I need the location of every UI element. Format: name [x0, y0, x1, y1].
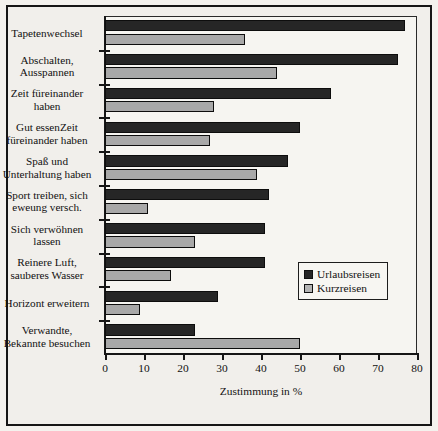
bar-1[interactable] [105, 135, 210, 146]
y-tick [99, 151, 110, 153]
bar-0[interactable] [105, 122, 300, 133]
x-tick [183, 353, 185, 360]
category-label: Spaß und Unterhaltung haben [1, 155, 93, 180]
bar-row: Abschalten, Ausspannen [0, 50, 438, 84]
y-tick [99, 185, 110, 187]
bar-1[interactable] [105, 304, 140, 315]
bar-group [105, 185, 417, 219]
category-label: Sich verwöhnen lassen [1, 223, 93, 248]
y-tick [99, 117, 110, 119]
x-tick-label: 60 [319, 362, 359, 374]
bar-1[interactable] [105, 169, 257, 180]
bar-0[interactable] [105, 88, 331, 99]
y-tick [99, 50, 110, 52]
bar-group [105, 50, 417, 84]
bar-group [105, 84, 417, 118]
bar-row: Sich verwöhnen lassen [0, 219, 438, 253]
y-tick [99, 286, 110, 288]
gray-square-icon [304, 284, 313, 293]
x-tick [144, 353, 146, 360]
bar-group [105, 16, 417, 50]
category-label: Zeit füreinander haben [1, 88, 93, 113]
bar-1[interactable] [105, 270, 171, 281]
bar-0[interactable] [105, 189, 269, 200]
bar-row: Gut essenZeit füreinander haben [0, 117, 438, 151]
bar-1[interactable] [105, 338, 300, 349]
bar-group [105, 117, 417, 151]
x-tick [222, 353, 224, 360]
x-tick-label: 10 [124, 362, 164, 374]
category-label: Horizont erweitern [1, 297, 93, 310]
legend-label: Kurzreisen [317, 281, 367, 295]
bar-0[interactable] [105, 324, 195, 335]
bar-rows: TapetenwechselAbschalten, AusspannenZeit… [0, 16, 438, 354]
x-tick-label: 0 [85, 362, 125, 374]
bar-row: Sport treiben, sich eweung versch. [0, 185, 438, 219]
x-tick [261, 353, 263, 360]
category-label: Sport treiben, sich eweung versch. [1, 189, 93, 214]
x-tick [300, 353, 302, 360]
legend-label: Urlaubsreisen [317, 267, 380, 281]
bar-row: Zeit füreinander haben [0, 84, 438, 118]
bar-0[interactable] [105, 257, 265, 268]
legend-item-kurzreisen[interactable]: Kurzreisen [304, 281, 380, 295]
category-label: Reinere Luft, sauberes Wasser [1, 257, 93, 282]
bar-row: Spaß und Unterhaltung haben [0, 151, 438, 185]
bar-0[interactable] [105, 54, 398, 65]
bar-group [105, 320, 417, 354]
bar-0[interactable] [105, 155, 288, 166]
x-tick [417, 353, 419, 360]
bar-1[interactable] [105, 101, 214, 112]
category-label: Abschalten, Ausspannen [1, 54, 93, 79]
bar-1[interactable] [105, 67, 277, 78]
x-tick-label: 70 [358, 362, 398, 374]
y-tick [99, 84, 110, 86]
x-tick-label: 80 [397, 362, 437, 374]
category-label: Tapetenwechsel [1, 27, 93, 40]
bar-1[interactable] [105, 236, 195, 247]
y-tick [99, 320, 110, 322]
bar-group [105, 151, 417, 185]
x-tick-label: 40 [241, 362, 281, 374]
chart-figure: TapetenwechselAbschalten, AusspannenZeit… [0, 0, 438, 431]
x-tick-label: 30 [202, 362, 242, 374]
category-label: Verwandte, Bekannte besuchen [1, 324, 93, 349]
bar-1[interactable] [105, 34, 245, 45]
bar-group [105, 219, 417, 253]
x-tick [105, 353, 107, 360]
bar-row: Tapetenwechsel [0, 16, 438, 50]
x-tick [339, 353, 341, 360]
y-tick [99, 253, 110, 255]
x-tick [378, 353, 380, 360]
x-axis-label: Zustimmung in % [105, 385, 417, 397]
bar-row: Verwandte, Bekannte besuchen [0, 320, 438, 354]
legend-item-urlaubsreisen[interactable]: Urlaubsreisen [304, 267, 380, 281]
x-tick-label: 50 [280, 362, 320, 374]
bar-0[interactable] [105, 20, 405, 31]
bar-0[interactable] [105, 291, 218, 302]
category-label: Gut essenZeit füreinander haben [1, 122, 93, 147]
dark-square-icon [304, 270, 313, 279]
chart-legend: Urlaubsreisen Kurzreisen [298, 262, 388, 300]
bar-1[interactable] [105, 203, 148, 214]
x-tick-label: 20 [163, 362, 203, 374]
bar-0[interactable] [105, 223, 265, 234]
y-tick [99, 219, 110, 221]
